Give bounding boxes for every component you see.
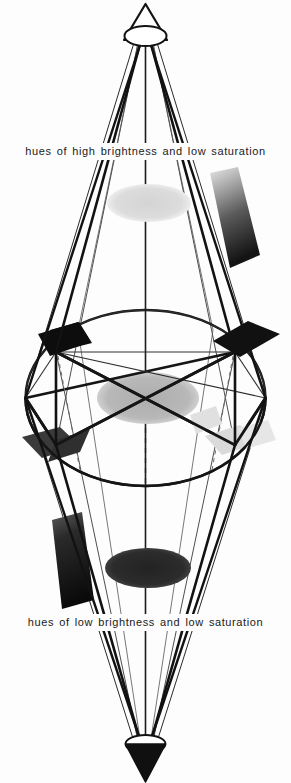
color-solid-figure: hues of high brightness and low saturati…: [0, 0, 291, 783]
top-apex-ellipse: [125, 26, 167, 46]
caption-low-brightness: hues of low brightness and low saturatio…: [0, 614, 291, 631]
upper-brightness-ellipse: [107, 184, 191, 222]
color-solid-drawing: [0, 0, 291, 783]
caption-high-brightness: hues of high brightness and low saturati…: [0, 143, 291, 160]
bottom-apex-triangle: [126, 744, 166, 782]
lower-brightness-ellipse: [105, 548, 191, 588]
